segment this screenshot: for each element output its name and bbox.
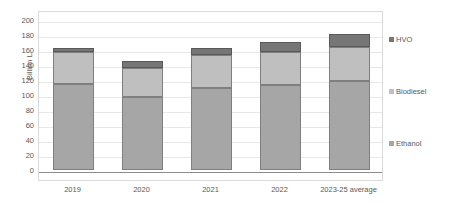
bar-segment-ethanol[interactable] [329,81,370,170]
y-tick-label: 20 [12,152,34,160]
square-swatch-icon [389,89,394,94]
x-tick-label: 2019 [38,185,107,195]
y-tick-label: 100 [12,92,34,100]
bar-group[interactable] [53,10,94,170]
bar-segment-biodiesel[interactable] [122,68,163,97]
bar-group[interactable] [191,10,232,170]
square-swatch-icon [389,37,394,42]
y-tick-label: 140 [12,62,34,70]
x-tick-label: 2020 [107,185,176,195]
x-tick-label: 2022 [245,185,314,195]
bar-segment-biodiesel[interactable] [260,52,301,85]
bar-segment-hvo[interactable] [191,48,232,56]
x-axis-tick-labels: 20192020202120222023-25 average [38,185,383,199]
y-tick-label: 40 [12,137,34,145]
y-tick-label: 200 [12,17,34,25]
chart-legend: HVOBiodieselEthanol [389,11,453,181]
legend-item-hvo[interactable]: HVO [389,35,412,44]
bar-segment-hvo[interactable] [122,61,163,68]
legend-label: Biodiesel [396,87,426,96]
bar-segment-hvo[interactable] [329,34,370,48]
bar-segment-ethanol[interactable] [260,85,301,171]
y-tick-label: 180 [12,32,34,40]
bar-segment-biodiesel[interactable] [191,55,232,88]
y-tick-label: 160 [12,47,34,55]
bar-group[interactable] [260,10,301,170]
y-tick-label: 60 [12,122,34,130]
bar-group[interactable] [122,10,163,170]
legend-label: HVO [396,35,412,44]
bar-segment-ethanol[interactable] [122,97,163,171]
bar-segment-biodiesel[interactable] [329,47,370,81]
x-tick-label: 2023-25 average [314,185,383,195]
y-tick-label: 0 [12,167,34,175]
x-tick-label: 2021 [176,185,245,195]
bar-segment-hvo[interactable] [260,42,301,52]
bar-segment-ethanol[interactable] [191,88,232,170]
y-tick-label: 80 [12,107,34,115]
square-swatch-icon [389,141,394,146]
y-axis-tick-labels: 200180160140120100806040200 [12,11,34,171]
legend-item-biodiesel[interactable]: Biodiesel [389,87,426,96]
stacked-bar-chart: Billion L 200180160140120100806040200 20… [0,0,455,212]
bar-group[interactable] [329,10,370,170]
legend-item-ethanol[interactable]: Ethanol [389,139,421,148]
bars-layer [39,12,382,180]
plot-area [38,11,383,181]
y-tick-label: 120 [12,77,34,85]
bar-segment-hvo[interactable] [53,48,94,53]
bar-segment-ethanol[interactable] [53,84,94,170]
legend-label: Ethanol [396,139,421,148]
bar-segment-biodiesel[interactable] [53,52,94,84]
